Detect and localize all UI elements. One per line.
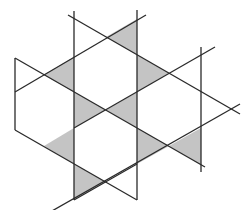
shaded-triangle-tri-center-right	[106, 92, 137, 128]
line-d-top-down-right	[68, 15, 240, 114]
shaded-triangle-tri-center-left	[74, 92, 106, 128]
shaded-triangle-tri-lower-left	[44, 128, 74, 164]
shaded-triangle-tri-right	[169, 128, 201, 165]
shaded-triangle-tri-bottom	[74, 164, 106, 200]
shaded-triangle-tri-lower-right	[137, 128, 169, 164]
shaded-triangle-tri-upper-right	[137, 55, 169, 92]
line-d-top-down-left	[15, 15, 146, 92]
hexagonal-star-diagram	[0, 0, 252, 210]
shaded-triangle-tri-top-right	[106, 19, 137, 55]
shaded-triangle-tri-left-top-small	[44, 57, 74, 92]
line-d-left-down-right	[15, 58, 205, 167]
